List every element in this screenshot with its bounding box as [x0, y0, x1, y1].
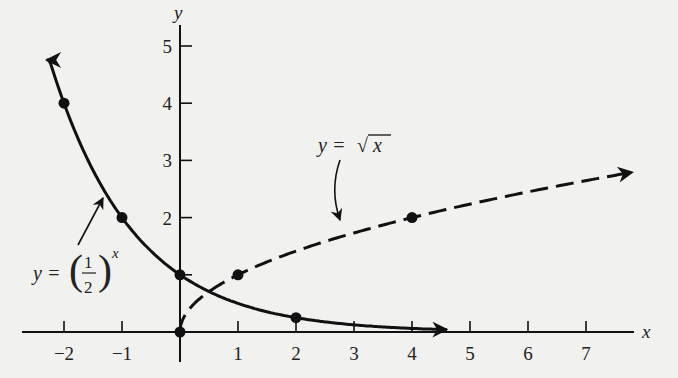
data-point: [175, 327, 186, 338]
fraction-numerator: 1: [84, 253, 93, 272]
annotation-prefix: y =: [31, 262, 60, 285]
x-tick-label: 6: [523, 343, 533, 364]
data-point: [233, 269, 244, 280]
radical-sign: √: [357, 134, 368, 156]
y-axis-label: y: [172, 2, 183, 23]
data-point: [407, 212, 418, 223]
x-tick-label: 2: [291, 343, 301, 364]
data-point: [59, 98, 70, 109]
right-paren: ): [98, 247, 112, 294]
x-tick-label: 4: [407, 343, 417, 364]
y-tick-label: 4: [163, 93, 173, 114]
fraction-denominator: 2: [84, 278, 93, 297]
x-tick-label: −1: [112, 343, 132, 364]
radicand: x: [372, 134, 382, 156]
x-axis: −2−11234567 x: [22, 321, 651, 364]
annotation-sqrt: y = √ x: [316, 134, 391, 220]
left-paren: (: [69, 247, 83, 294]
y-tick-label: 5: [163, 36, 173, 57]
data-point: [117, 212, 128, 223]
y-tick-label: 3: [163, 150, 173, 171]
function-graph: −2−11234567 x 2345 y y = ( 1 2 ) x y = √…: [0, 0, 678, 378]
y-tick-label: 2: [163, 208, 173, 229]
x-tick-label: 1: [233, 343, 243, 364]
data-point: [175, 269, 186, 280]
annotation-half-power: y = ( 1 2 ) x: [31, 198, 119, 297]
x-tick-label: 5: [465, 343, 475, 364]
x-tick-label: 3: [349, 343, 359, 364]
data-point: [291, 312, 302, 323]
series-sqrt: [175, 172, 633, 337]
annotation-exponent: x: [111, 245, 119, 261]
annotation-prefix: y =: [316, 134, 345, 157]
x-tick-label: 7: [581, 343, 591, 364]
x-axis-label: x: [641, 321, 651, 342]
y-axis: 2345 y: [163, 2, 193, 362]
x-tick-label: −2: [54, 343, 74, 364]
